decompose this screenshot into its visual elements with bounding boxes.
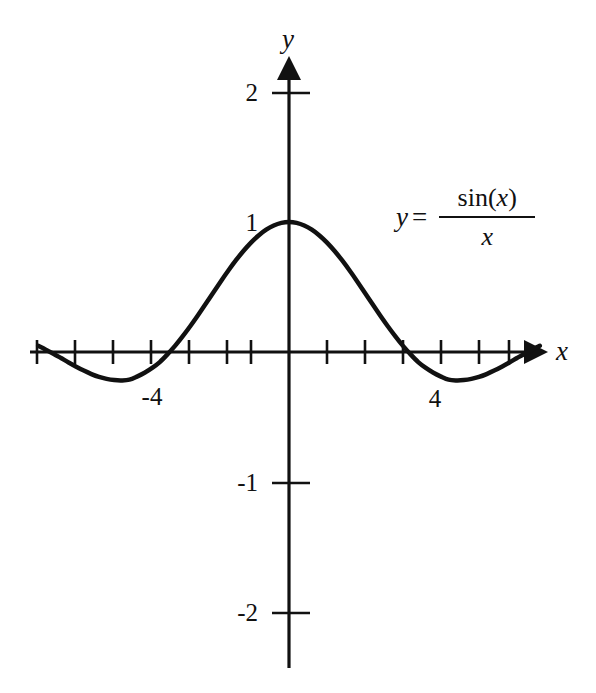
numerator-close-paren: ) (508, 183, 517, 212)
equation-numerator: sin(x) (452, 183, 523, 216)
y-axis-label: y (282, 26, 294, 53)
numerator-open-paren: ( (488, 183, 497, 212)
y-axis (277, 56, 301, 668)
equation-equals-sign: = (412, 202, 427, 233)
equation-annotation: y = sin(x) x (396, 183, 535, 252)
x-tick-label-minus4: -4 (122, 384, 182, 409)
equation-denominator: x (475, 218, 499, 252)
numerator-variable: x (497, 183, 509, 212)
y-tick-label-minus1: -1 (198, 470, 258, 495)
x-tick-label-4: 4 (405, 386, 465, 411)
equation-lhs: y (396, 202, 408, 233)
graph-canvas (0, 0, 596, 693)
y-tick-label-1: 1 (198, 210, 258, 235)
equation-fraction: sin(x) x (439, 183, 535, 252)
sin-function-name: sin (458, 183, 488, 212)
y-axis-arrowhead (277, 56, 301, 80)
y-tick-label-2: 2 (198, 80, 258, 105)
x-axis-label: x (556, 338, 568, 365)
y-tick-label-minus2: -2 (198, 600, 258, 625)
sinc-function-figure: 2 1 -1 -2 -4 4 y x y = sin(x) x (0, 0, 596, 693)
